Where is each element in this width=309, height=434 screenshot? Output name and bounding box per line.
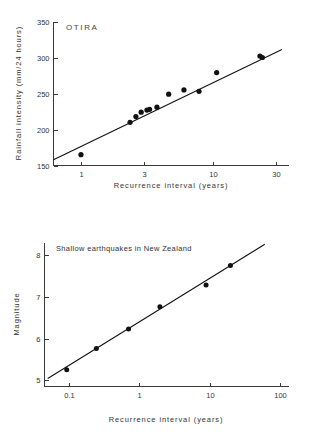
- chart-otira: 150200250300350 131030 OTIRA Recurrence …: [0, 0, 309, 200]
- data-point: [94, 346, 99, 351]
- y-tick-label: 8: [36, 251, 40, 260]
- y-axis-ticks: 5678: [36, 251, 48, 385]
- y-tick-label: 150: [37, 162, 50, 171]
- data-point: [196, 89, 201, 94]
- data-point: [133, 114, 138, 119]
- data-point: [157, 304, 162, 309]
- x-tick-label: 1: [137, 391, 141, 400]
- data-point: [126, 326, 131, 331]
- chart-earthquakes: 5678 0.1110100 Shallow earthquakes in Ne…: [0, 200, 309, 434]
- x-axis-title: Recurrence interval (years): [114, 181, 229, 190]
- data-point: [147, 107, 152, 112]
- x-axis-ticks: 131030: [79, 162, 280, 179]
- x-tick-label: 0.1: [64, 391, 74, 400]
- x-tick-label: 3: [142, 170, 146, 179]
- data-point: [139, 110, 144, 115]
- y-tick-label: 6: [36, 335, 40, 344]
- y-tick-label: 5: [36, 376, 40, 385]
- data-point: [166, 92, 171, 97]
- chart-earthquakes-svg: 5678 0.1110100 Shallow earthquakes in Ne…: [0, 200, 309, 434]
- data-points-group: [78, 53, 265, 157]
- data-point: [127, 120, 132, 125]
- trend-line: [54, 50, 282, 160]
- data-point: [228, 263, 233, 268]
- data-point: [64, 367, 69, 372]
- data-point: [204, 283, 209, 288]
- annotation-earthquakes: Shallow earthquakes in New Zealand: [56, 244, 192, 253]
- data-point: [154, 105, 159, 110]
- axis-frame: [45, 243, 289, 387]
- y-tick-label: 250: [37, 90, 50, 99]
- y-axis-ticks: 150200250300350: [37, 18, 58, 171]
- y-tick-label: 200: [37, 126, 50, 135]
- y-tick-label: 350: [37, 18, 50, 27]
- data-point: [181, 87, 186, 92]
- x-tick-label: 30: [272, 170, 280, 179]
- data-point: [260, 55, 265, 60]
- x-tick-label: 100: [274, 391, 287, 400]
- trend-line-group: [54, 50, 282, 160]
- x-axis-title: Recurrence interval (years): [109, 415, 224, 424]
- y-tick-label: 300: [37, 54, 50, 63]
- y-tick-label: 7: [36, 293, 40, 302]
- y-axis-title: Magnitude: [12, 292, 21, 335]
- data-point: [78, 152, 83, 157]
- x-tick-label: 10: [209, 170, 217, 179]
- chart-otira-svg: 150200250300350 131030 OTIRA Recurrence …: [0, 0, 309, 200]
- x-axis-ticks: 0.1110100: [64, 383, 286, 400]
- y-axis-title: Rainfall intensity (mm/24 hours): [14, 26, 23, 160]
- data-point: [214, 70, 219, 75]
- x-tick-label: 10: [206, 391, 214, 400]
- x-tick-label: 1: [79, 170, 83, 179]
- panel-label-otira: OTIRA: [66, 23, 98, 32]
